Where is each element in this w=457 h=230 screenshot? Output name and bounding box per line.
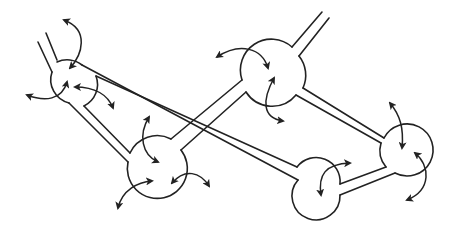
- rotation-arrow-icon: [27, 82, 67, 99]
- tube-node3-open-end: [292, 12, 329, 56]
- node-1: [51, 60, 98, 106]
- rotation-arrow-icon: [118, 181, 152, 208]
- connector-tubes: [38, 12, 395, 195]
- tube-node3-node5: [296, 88, 384, 143]
- rotation-arrows: [27, 20, 426, 208]
- rotation-arrow-icon: [143, 117, 158, 162]
- node-2: [127, 136, 187, 199]
- tube-node4-node5: [340, 167, 395, 195]
- rotation-arrow-icon: [266, 78, 283, 121]
- molecular-linkage-diagram: [0, 0, 457, 230]
- tube-node1-node2: [69, 103, 130, 162]
- rotation-arrow-icon: [172, 173, 209, 186]
- tube-node1-open-end: [38, 33, 57, 72]
